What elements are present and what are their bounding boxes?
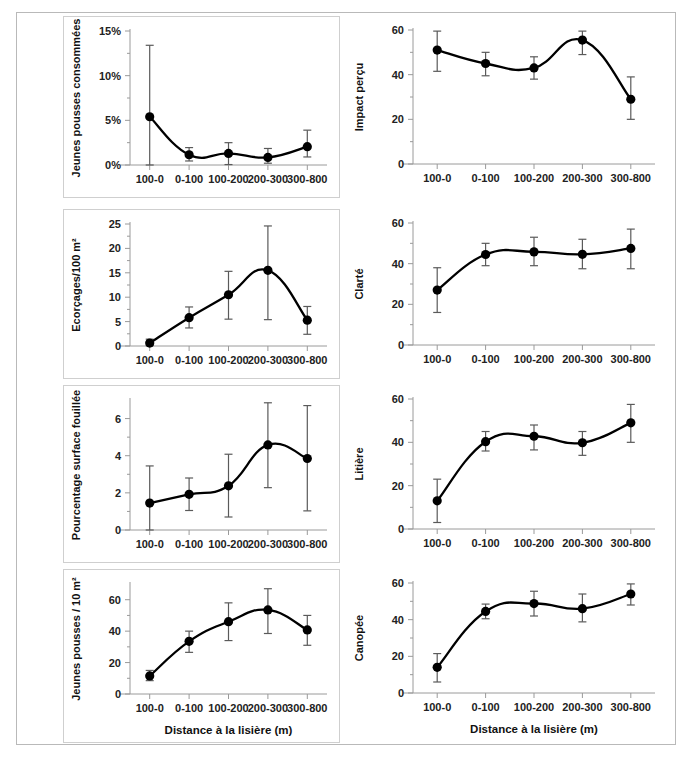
error-bar <box>146 466 154 530</box>
x-tick-label: 300-800 <box>611 353 651 365</box>
y-tick-label: 0 <box>398 158 404 170</box>
y-tick-label: 40 <box>392 258 404 270</box>
data-point-marker <box>145 338 154 347</box>
y-axis-title: Jeunes pousses consommées <box>70 19 82 178</box>
data-point-marker <box>529 247 538 256</box>
x-tick-label: 200-300 <box>562 353 602 365</box>
y-tick-label: 10 <box>109 291 121 303</box>
x-tick-label: 200-300 <box>248 354 288 366</box>
x-tick-label: 0-100 <box>175 538 203 550</box>
x-axis-title: Distance à la lisière (m) <box>470 723 598 735</box>
y-tick-label: 60 <box>392 393 404 405</box>
data-point-marker <box>224 481 233 490</box>
y-tick-label: 15% <box>99 25 121 37</box>
x-tick-label: 100-200 <box>208 702 248 714</box>
x-tick-label: 100-200 <box>514 353 554 365</box>
data-point-marker <box>433 46 442 55</box>
x-tick-label: 0-100 <box>472 537 500 549</box>
figure-caption <box>18 753 674 760</box>
x-tick-label: 100-0 <box>423 172 451 184</box>
data-point-marker <box>626 244 635 253</box>
y-tick-label: 0 <box>398 339 404 351</box>
plot-ecorcages-100m2: 0510152025100-00-100100-200200-300300-80… <box>64 210 341 380</box>
panel-ecorcages-100m2: 0510152025100-00-100100-200200-300300-80… <box>63 209 340 379</box>
y-tick-label: 20 <box>109 657 121 669</box>
x-tick-label: 300-800 <box>287 538 327 550</box>
data-point-marker <box>529 432 538 441</box>
panel-clarte: 0204060100-00-100100-200200-300300-800Cl… <box>347 209 669 379</box>
x-tick-label: 100-200 <box>514 172 554 184</box>
y-tick-label: 0 <box>115 340 121 352</box>
y-tick-label: 0 <box>115 524 121 536</box>
y-axis-title: Impact perçu <box>353 63 365 131</box>
data-point-marker <box>481 607 490 616</box>
data-point-marker <box>224 149 233 158</box>
y-axis-title: Canopée <box>353 615 365 661</box>
x-tick-label: 100-200 <box>208 538 248 550</box>
x-tick-label: 300-800 <box>611 701 651 713</box>
x-tick-label: 0-100 <box>175 702 203 714</box>
panel-litiere: 0204060100-00-100100-200200-300300-800Li… <box>347 385 669 563</box>
plot-canopee: 0204060100-00-100100-200200-300300-800Ca… <box>347 569 669 743</box>
data-point-marker <box>626 589 635 598</box>
x-tick-label: 100-0 <box>136 354 164 366</box>
data-point-marker <box>433 663 442 672</box>
panel-canopee: 0204060100-00-100100-200200-300300-800Ca… <box>347 569 669 743</box>
y-tick-label: 20 <box>392 298 404 310</box>
y-tick-label: 25 <box>109 218 121 230</box>
y-tick-label: 6 <box>115 413 121 425</box>
y-tick-label: 60 <box>109 594 121 606</box>
panel-impact-percu: 0204060100-00-100100-200200-300300-800Im… <box>347 16 669 198</box>
panel-jeunes-pousses-10m2: 0204060100-00-100100-200200-300300-800Je… <box>63 569 340 743</box>
x-tick-label: 300-800 <box>287 354 327 366</box>
plot-litiere: 0204060100-00-100100-200200-300300-800Li… <box>347 385 669 563</box>
data-point-marker <box>481 59 490 68</box>
data-point-marker <box>263 440 272 449</box>
y-tick-label: 60 <box>392 217 404 229</box>
y-tick-label: 40 <box>392 69 404 81</box>
x-tick-label: 100-0 <box>136 702 164 714</box>
x-tick-label: 200-300 <box>248 173 288 185</box>
x-tick-label: 0-100 <box>175 173 203 185</box>
data-point-marker <box>529 63 538 72</box>
data-point-marker <box>185 150 194 159</box>
y-tick-label: 20 <box>392 113 404 125</box>
y-tick-label: 0 <box>398 687 404 699</box>
data-point-marker <box>433 496 442 505</box>
plot-clarte: 0204060100-00-100100-200200-300300-800Cl… <box>347 209 669 379</box>
data-point-marker <box>263 605 272 614</box>
plot-jeunes-pousses-consommees: 0%5%10%15%100-00-100100-200200-300300-80… <box>64 17 341 199</box>
plot-jeunes-pousses-10m2: 0204060100-00-100100-200200-300300-800Je… <box>64 570 341 744</box>
y-axis-title: Clarté <box>353 268 365 299</box>
x-tick-label: 100-0 <box>423 537 451 549</box>
x-tick-label: 100-0 <box>136 173 164 185</box>
x-tick-label: 300-800 <box>287 702 327 714</box>
data-point-marker <box>626 418 635 427</box>
x-tick-label: 100-200 <box>514 537 554 549</box>
y-tick-label: 4 <box>115 450 122 462</box>
plot-pourcentage-surface-fouillee: 0246100-00-100100-200200-300300-800Pourc… <box>64 386 341 564</box>
data-point-marker <box>224 617 233 626</box>
data-point-marker <box>303 142 312 151</box>
x-tick-label: 200-300 <box>562 172 602 184</box>
data-point-marker <box>303 625 312 634</box>
panel-pourcentage-surface-fouillee: 0246100-00-100100-200200-300300-800Pourc… <box>63 385 340 563</box>
plot-impact-percu: 0204060100-00-100100-200200-300300-800Im… <box>347 16 669 198</box>
data-point-marker <box>481 437 490 446</box>
x-tick-label: 100-200 <box>208 173 248 185</box>
data-point-marker <box>185 313 194 322</box>
figure-frame: 0%5%10%15%100-00-100100-200200-300300-80… <box>16 12 676 745</box>
data-point-marker <box>303 316 312 325</box>
x-tick-label: 200-300 <box>248 538 288 550</box>
y-tick-label: 0% <box>105 159 121 171</box>
x-tick-label: 100-0 <box>136 538 164 550</box>
y-tick-label: 40 <box>109 625 121 637</box>
x-tick-label: 100-200 <box>208 354 248 366</box>
x-tick-label: 0-100 <box>472 172 500 184</box>
x-tick-label: 200-300 <box>562 701 602 713</box>
y-tick-label: 5% <box>105 114 121 126</box>
data-point-marker <box>578 438 587 447</box>
data-point-marker <box>145 112 154 121</box>
data-point-marker <box>529 599 538 608</box>
data-point-marker <box>224 290 233 299</box>
